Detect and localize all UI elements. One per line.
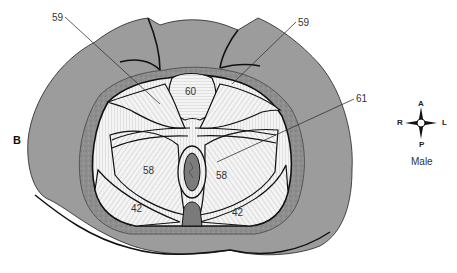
label-59-left: 59 bbox=[52, 13, 63, 23]
label-42-right: 42 bbox=[232, 208, 243, 218]
perineum-illustration bbox=[0, 0, 457, 273]
label-60: 60 bbox=[185, 87, 196, 97]
panel-label: B bbox=[13, 135, 21, 146]
perineum-diagram: B 59 59 60 61 58 58 42 42 A P R L Male bbox=[0, 0, 457, 273]
compass-anterior: A bbox=[418, 100, 424, 108]
label-61: 61 bbox=[356, 94, 367, 104]
label-58-left: 58 bbox=[143, 166, 154, 176]
anus bbox=[184, 153, 200, 191]
compass-right: R bbox=[397, 119, 403, 127]
label-42-left: 42 bbox=[131, 204, 142, 214]
label-59-right: 59 bbox=[298, 18, 309, 28]
compass-caption: Male bbox=[411, 157, 433, 167]
compass-left: L bbox=[442, 119, 447, 127]
compass-posterior: P bbox=[419, 141, 424, 149]
orientation-compass bbox=[405, 107, 437, 139]
label-58-right: 58 bbox=[216, 171, 227, 181]
